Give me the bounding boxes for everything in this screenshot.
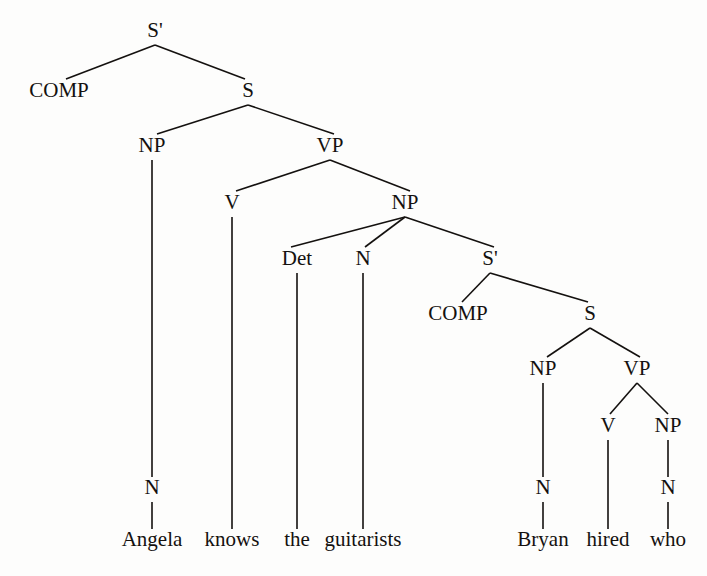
tree-node-n-embedded: N [535, 475, 550, 499]
tree-terminal-layer: AngelaknowstheguitaristsBryanhiredwho [122, 527, 686, 551]
tree-node-n-subject: N [144, 475, 159, 499]
tree-node-s-bar-root: S' [147, 18, 162, 42]
tree-node-n-embedded-obj: N [660, 475, 675, 499]
edge-s-np-emb [547, 328, 590, 357]
edge-vp-np [330, 160, 410, 191]
tree-terminal-word-hired: hired [586, 527, 630, 551]
tree-terminal-word-knows: knows [205, 527, 260, 551]
tree-node-s-bar-relative: S' [482, 246, 497, 270]
tree-node-s-relative: S [584, 301, 596, 325]
edge-sbar-s-rel [490, 273, 588, 302]
edge-vp-v-emb [610, 383, 637, 414]
tree-terminal-word-bryan: Bryan [517, 527, 569, 551]
edge-sbar-comp [66, 45, 155, 79]
tree-node-layer: S'COMPSNPVPVNPDetNS'COMPSNPVPVNPNNN [29, 18, 681, 499]
tree-node-v-embedded: V [600, 413, 615, 437]
edge-sbar-comp-rel [462, 273, 490, 302]
edge-sbar-s [155, 45, 245, 79]
tree-terminal-word-angela: Angela [122, 527, 183, 551]
tree-node-comp-matrix: COMP [29, 78, 89, 102]
syntax-tree-figure: S'COMPSNPVPVNPDetNS'COMPSNPVPVNPNNN Ange… [0, 0, 707, 576]
tree-node-comp-relative: COMP [428, 301, 488, 325]
tree-node-vp-embedded: VP [624, 356, 651, 380]
syntax-tree-canvas: S'COMPSNPVPVNPDetNS'COMPSNPVPVNPNNN Ange… [0, 0, 707, 576]
tree-terminal-word-guitarists: guitarists [325, 527, 402, 551]
tree-node-v-matrix: V [224, 190, 239, 214]
tree-node-det-object: Det [282, 246, 312, 270]
tree-terminal-word-the: the [284, 527, 310, 551]
tree-node-np-embedded-obj: NP [655, 413, 682, 437]
tree-node-np-subject: NP [139, 133, 166, 157]
tree-node-s-matrix: S [242, 78, 254, 102]
edge-vp-np-emb [637, 383, 668, 414]
tree-node-n-object: N [355, 246, 370, 270]
edge-np-sbar [405, 217, 494, 247]
tree-terminal-word-who: who [650, 527, 686, 551]
tree-edge-layer [66, 45, 668, 529]
tree-node-np-object: NP [392, 190, 419, 214]
tree-node-vp-matrix: VP [317, 133, 344, 157]
edge-vp-v [236, 160, 330, 191]
tree-node-np-embedded: NP [530, 356, 557, 380]
edge-s-vp [248, 105, 334, 134]
edge-s-np [157, 105, 248, 134]
edge-s-vp-emb [590, 328, 640, 357]
edge-np-det [291, 217, 405, 247]
